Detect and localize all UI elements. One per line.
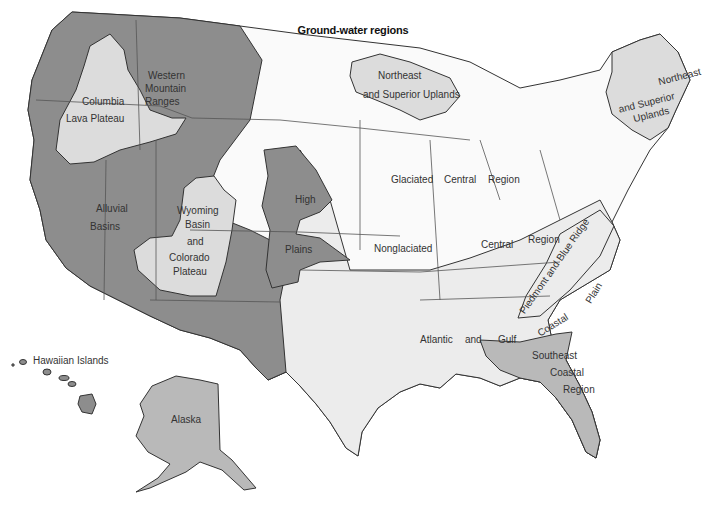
map-graphic <box>0 0 714 505</box>
label-central-north: Central <box>444 175 476 185</box>
label-atlantic-and: and <box>465 335 482 345</box>
label-lava-plateau: Lava Plateau <box>66 114 124 124</box>
label-and: and <box>187 237 204 247</box>
label-alaska: Alaska <box>171 415 201 425</box>
label-region-north: Region <box>488 175 520 185</box>
region-hawaii <box>12 360 96 415</box>
label-colorado: Colorado <box>169 253 210 263</box>
label-plains: Plains <box>285 245 312 255</box>
map-title: Ground-water regions <box>0 24 714 36</box>
label-gulf: Gulf <box>498 335 516 345</box>
label-plateau: Plateau <box>173 267 207 277</box>
label-atlantic: Atlantic <box>420 335 453 345</box>
label-western: Western <box>148 71 185 81</box>
label-alluvial: Alluvial <box>96 204 128 214</box>
map-title-text: Ground-water regions <box>298 24 409 36</box>
label-columbia: Columbia <box>82 97 124 107</box>
label-basin: Basin <box>185 220 210 230</box>
label-southeast-region: Region <box>563 385 595 395</box>
label-ranges: Ranges <box>145 97 179 107</box>
label-basins: Basins <box>90 222 120 232</box>
label-southeast-coastal: Coastal <box>550 368 584 378</box>
region-alaska <box>136 376 256 492</box>
label-northeast-west: Northeast <box>378 71 421 81</box>
label-superior-uplands-west: and Superior Uplands <box>363 90 460 100</box>
label-region-south: Region <box>528 235 560 245</box>
label-nonglaciated: Nonglaciated <box>374 244 432 254</box>
label-central-south: Central <box>481 240 513 250</box>
label-southeast: Southeast <box>532 351 577 361</box>
ground-water-regions-map: Ground-water regions Western Mountain Ra… <box>0 0 714 505</box>
label-hawaiian-islands: Hawaiian Islands <box>33 356 109 366</box>
label-mountain: Mountain <box>145 84 186 94</box>
label-high: High <box>295 195 316 205</box>
label-wyoming: Wyoming <box>177 206 219 216</box>
label-glaciated: Glaciated <box>391 175 433 185</box>
